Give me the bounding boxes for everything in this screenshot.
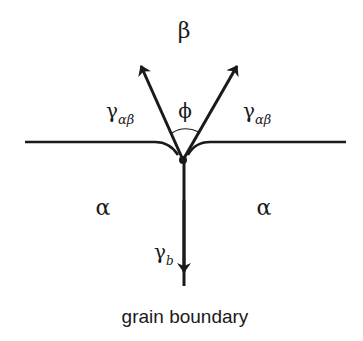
phase-alpha-right-label: α — [257, 195, 272, 220]
gamma-symbol: γ — [154, 240, 166, 264]
gamma-subscript: b — [166, 254, 174, 268]
interface-left — [25, 142, 178, 155]
gamma-symbol: γ — [106, 99, 118, 123]
caption-grain-boundary: grain boundary — [122, 306, 249, 327]
angle-arc — [172, 129, 199, 133]
gamma-symbol: γ — [243, 99, 255, 123]
tension-bottom-label: γb — [154, 240, 174, 268]
angle-phi-label: ϕ — [178, 99, 192, 123]
tension-arrow-left — [141, 66, 183, 160]
triple-junction — [179, 156, 187, 164]
tension-left-label: γαβ — [106, 99, 134, 127]
phase-alpha-left-label: α — [96, 195, 111, 220]
phase-beta-label: β — [178, 18, 191, 43]
gamma-subscript: αβ — [118, 112, 134, 127]
grain-boundary-diagram: β ϕ γαβ γαβ α α γb grain boundary — [0, 0, 363, 341]
tension-right-label: γαβ — [243, 99, 271, 127]
interface-right — [188, 142, 346, 155]
gamma-subscript: αβ — [255, 112, 271, 127]
